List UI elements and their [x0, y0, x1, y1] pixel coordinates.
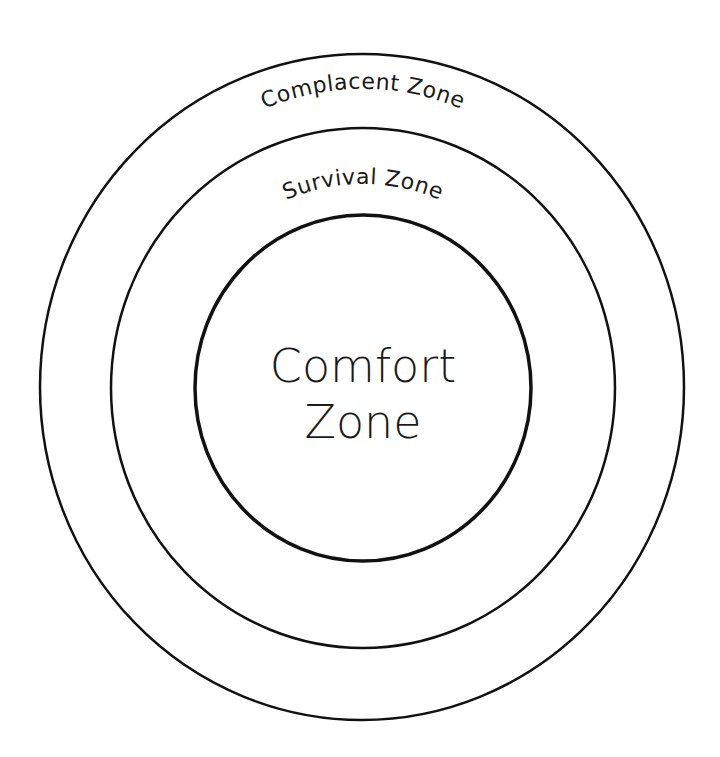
complacent-zone-text: Complacent Zone: [257, 69, 469, 114]
complacent-zone-label: Complacent Zone: [257, 69, 469, 114]
survival-zone-label: Survival Zone: [279, 164, 448, 205]
comfort-zone-label-line-1: Comfort: [213, 338, 513, 394]
survival-zone-text: Survival Zone: [279, 164, 448, 205]
comfort-zone-label-line-2: Zone: [213, 394, 513, 450]
